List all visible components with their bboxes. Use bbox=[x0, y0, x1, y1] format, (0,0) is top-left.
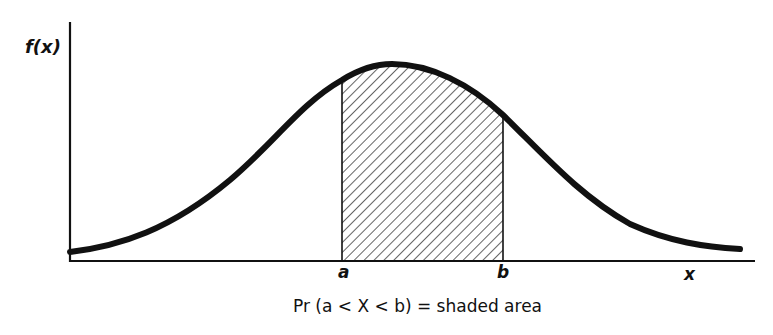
figure-caption: Pr (a < X < b) = shaded area bbox=[293, 296, 542, 316]
marker-label-a: a bbox=[338, 262, 349, 282]
probability-density-diagram: f(x) a b x Pr (a < X < b) = shaded area bbox=[0, 0, 773, 335]
marker-label-b: b bbox=[497, 262, 509, 282]
density-plot bbox=[0, 0, 773, 335]
shaded-area bbox=[342, 60, 503, 261]
y-axis-label: f(x) bbox=[25, 36, 61, 57]
x-axis-label: x bbox=[684, 264, 695, 284]
